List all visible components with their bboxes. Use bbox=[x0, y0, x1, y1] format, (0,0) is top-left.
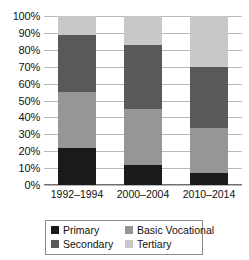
legend-item-basic-vocational[interactable]: Basic Vocational bbox=[125, 224, 214, 236]
stacked-bar-chart: 0%10%20%30%40%50%60%70%80%90%100% 1992–1… bbox=[0, 0, 249, 260]
legend-label: Basic Vocational bbox=[137, 224, 214, 236]
y-tick-label: 50% bbox=[19, 95, 40, 106]
x-tick-label: 1992–1994 bbox=[51, 188, 104, 201]
y-tick-label: 20% bbox=[19, 146, 40, 157]
bars-layer bbox=[44, 16, 242, 185]
bar-segment-tertiary bbox=[124, 16, 162, 45]
legend-item-primary[interactable]: Primary bbox=[51, 224, 123, 236]
bar-segment-basic-vocational bbox=[190, 128, 228, 174]
y-tick-label: 40% bbox=[19, 112, 40, 123]
legend-label: Primary bbox=[63, 224, 99, 236]
y-tick-label: 10% bbox=[19, 163, 40, 174]
legend-label: Secondary bbox=[63, 238, 113, 250]
x-tick-label: 2010–2014 bbox=[183, 188, 236, 201]
y-tick-label: 100% bbox=[13, 11, 40, 22]
bar-2 bbox=[124, 16, 162, 185]
x-axis: 1992–19942000–20042010–2014 bbox=[44, 188, 242, 204]
y-tick-label: 80% bbox=[19, 44, 40, 55]
bar-segment-tertiary bbox=[190, 16, 228, 67]
legend-item-secondary[interactable]: Secondary bbox=[51, 238, 123, 250]
bar-segment-secondary bbox=[124, 45, 162, 109]
y-tick-label: 60% bbox=[19, 78, 40, 89]
legend-swatch-icon bbox=[51, 226, 59, 234]
bar-1 bbox=[58, 16, 96, 185]
y-tick-label: 90% bbox=[19, 27, 40, 38]
chart-legend: PrimaryBasic VocationalSecondaryTertiary bbox=[45, 220, 203, 255]
y-axis: 0%10%20%30%40%50%60%70%80%90%100% bbox=[0, 0, 42, 200]
y-tick-label: 70% bbox=[19, 61, 40, 72]
bar-segment-secondary bbox=[58, 35, 96, 92]
y-tick-label: 0% bbox=[25, 180, 41, 191]
bar-segment-primary bbox=[58, 148, 96, 185]
bar-segment-secondary bbox=[190, 67, 228, 128]
bar-segment-primary bbox=[190, 173, 228, 185]
bar-segment-tertiary bbox=[58, 16, 96, 35]
bar-3 bbox=[190, 16, 228, 185]
bar-segment-primary bbox=[124, 165, 162, 185]
plot-area: 0%10%20%30%40%50%60%70%80%90%100% 1992–1… bbox=[0, 0, 249, 200]
legend-label: Tertiary bbox=[137, 238, 171, 250]
gridline bbox=[44, 185, 242, 186]
bar-segment-basic-vocational bbox=[58, 92, 96, 148]
bar-segment-basic-vocational bbox=[124, 109, 162, 165]
y-tick-label: 30% bbox=[19, 129, 40, 140]
x-tick-label: 2000–2004 bbox=[117, 188, 170, 201]
legend-swatch-icon bbox=[125, 226, 133, 234]
legend-swatch-icon bbox=[125, 240, 133, 248]
legend-swatch-icon bbox=[51, 240, 59, 248]
legend-item-tertiary[interactable]: Tertiary bbox=[125, 238, 214, 250]
